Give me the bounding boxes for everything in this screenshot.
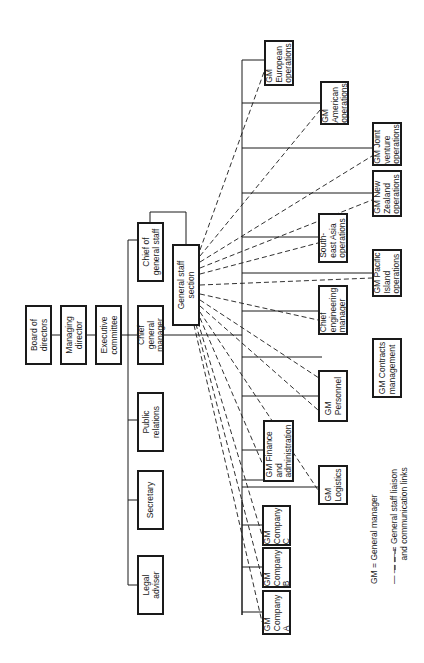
- chief-of-general-staff-label: Chief of general staff: [141, 229, 160, 276]
- gm-company-c-box: GM Company C: [262, 505, 291, 546]
- gm-personnel-label: GM Personnel: [324, 377, 343, 415]
- public-relations-label: Public relations: [141, 406, 160, 438]
- gm-logistics-label: GM Logistics: [324, 468, 343, 501]
- se-asia-box: South- east Asia operations: [318, 213, 348, 263]
- gm-pacific-label: GM Pacific Island operations: [373, 252, 402, 293]
- gm-company-a-label: GM Company A: [262, 594, 291, 630]
- gm-joint-venture-box: GM Joint venture operations: [372, 122, 402, 166]
- gm-contracts-box: GM Contracts management: [372, 338, 402, 398]
- general-staff-section-box: General staff section: [172, 244, 200, 326]
- executive-committee-label: Executive committee: [99, 315, 118, 354]
- gm-company-a-box: GM Company A: [262, 590, 291, 635]
- chief-engineering-box: Chief engineering manager: [318, 285, 348, 335]
- gm-european-box: GM European operations: [264, 40, 294, 86]
- legal-adviser-label: Legal adviser: [141, 571, 160, 598]
- secretary-box: Secretary: [137, 470, 164, 530]
- secretary-label: Secretary: [146, 482, 156, 518]
- public-relations-box: Public relations: [137, 392, 164, 452]
- gm-pacific-box: GM Pacific Island operations: [372, 249, 402, 297]
- gm-new-zealand-box: GM New Zealand operations: [372, 170, 402, 217]
- gm-finance-box: GM Finance and administration: [263, 420, 294, 482]
- legend-gm: GM = General manager: [370, 494, 380, 584]
- board-of-directors-box: Board of directors: [25, 305, 52, 365]
- general-staff-section-label: General staff section: [177, 261, 196, 310]
- chief-of-general-staff-box: Chief of general staff: [137, 222, 164, 282]
- chief-general-manager-box: Chief general manager: [137, 305, 164, 365]
- legal-adviser-box: Legal adviser: [137, 555, 164, 615]
- gm-personnel-box: GM Personnel: [318, 370, 348, 422]
- gm-american-box: GM American operations: [320, 81, 349, 125]
- gm-logistics-box: GM Logistics: [318, 465, 348, 505]
- gm-joint-venture-label: GM Joint venture operations: [373, 124, 402, 164]
- legend-dashed: — — — = General staff liaison and commun…: [390, 467, 409, 584]
- board-of-directors-label: Board of directors: [29, 319, 48, 352]
- managing-director-label: Managing director: [64, 316, 83, 353]
- gm-company-b-box: GM Company B: [262, 547, 291, 588]
- gm-american-label: GM American operations: [320, 83, 349, 123]
- gm-company-b-label: GM Company B: [262, 549, 291, 585]
- gm-company-c-label: GM Company C: [262, 507, 291, 543]
- gm-new-zealand-label: GM New Zealand operations: [373, 174, 402, 214]
- se-asia-label: South- east Asia operations: [319, 218, 348, 258]
- gm-european-label: GM European operations: [265, 43, 294, 83]
- gm-contracts-label: GM Contracts management: [378, 342, 397, 394]
- executive-committee-box: Executive committee: [95, 305, 122, 365]
- chief-general-manager-label: Chief general manager: [136, 318, 165, 352]
- managing-director-box: Managing director: [60, 305, 87, 365]
- chief-engineering-label: Chief engineering manager: [319, 288, 348, 332]
- gm-finance-label: GM Finance and administration: [264, 425, 293, 478]
